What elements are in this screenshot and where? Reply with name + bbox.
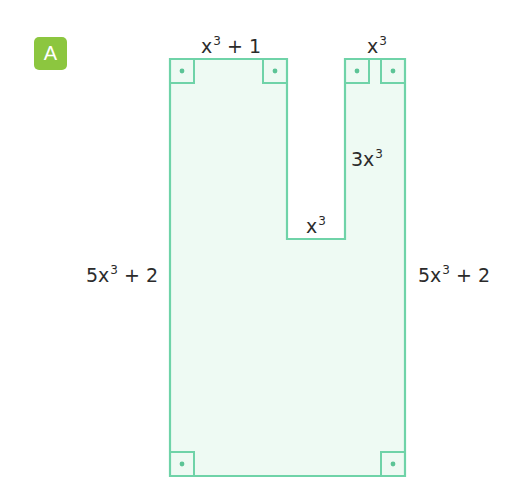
u-shape-polygon	[170, 59, 405, 476]
label-top-right-width: x3	[367, 37, 387, 56]
label-right-height: 5x3 + 2	[418, 266, 490, 285]
u-shape-diagram	[0, 0, 513, 490]
label-notch-width: x3	[306, 217, 326, 236]
label-notch-depth: 3x3	[351, 150, 383, 169]
label-left-height: 5x3 + 2	[86, 266, 158, 285]
label-top-left-width: x3 + 1	[201, 37, 261, 56]
